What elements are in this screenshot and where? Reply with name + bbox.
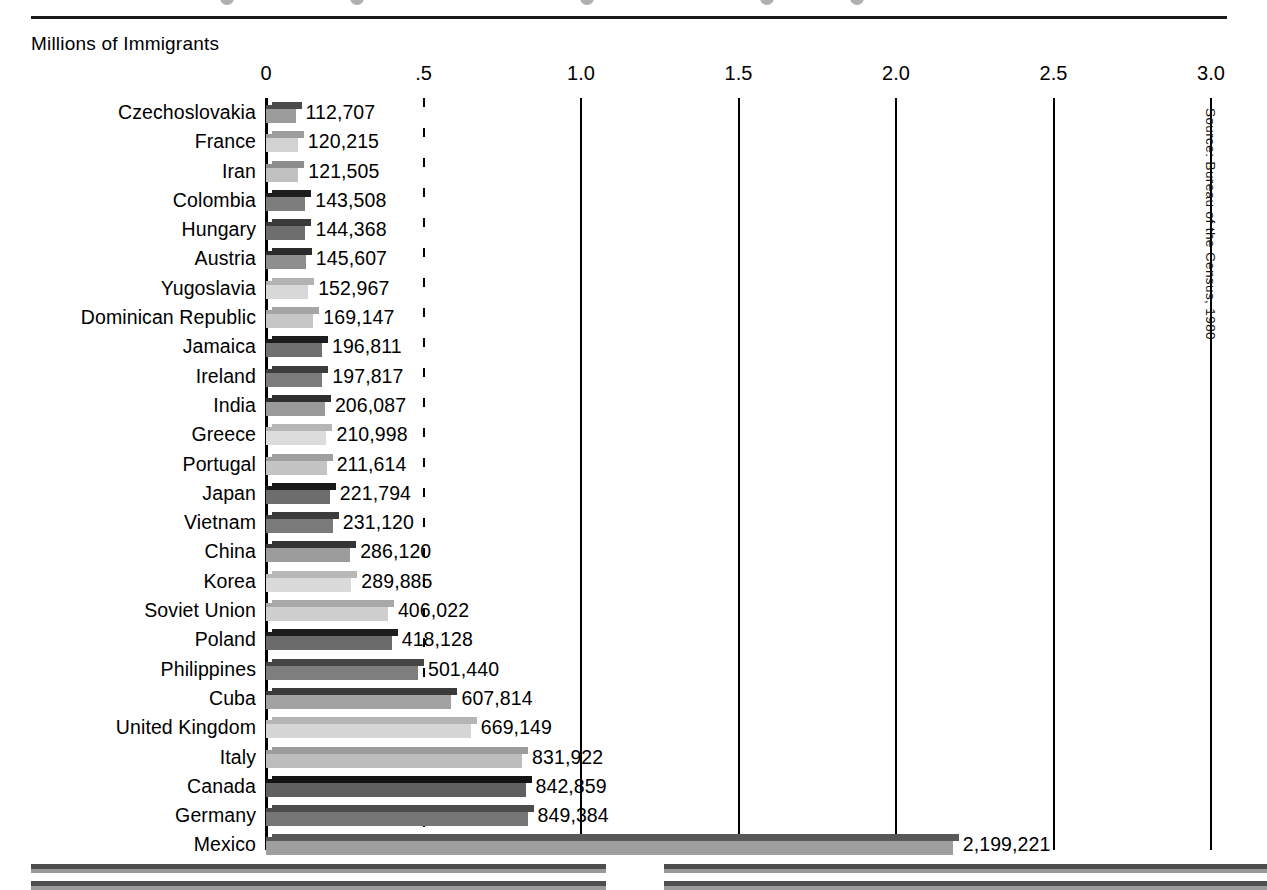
bar-top-face	[272, 834, 959, 841]
category-label: China	[205, 540, 256, 563]
bar-top-face	[272, 805, 534, 812]
bar-container	[266, 366, 328, 389]
x-tick-label: 0	[260, 62, 271, 85]
bar-value-label: 406,022	[398, 599, 469, 622]
bar-row: France120,215	[0, 128, 1267, 157]
bar	[266, 190, 311, 212]
category-label: Hungary	[182, 218, 256, 241]
bar-container	[266, 571, 357, 594]
bar-front-face	[266, 519, 333, 533]
bleed-stripe	[664, 864, 1267, 873]
bar-front-face	[266, 138, 298, 152]
bar-top-face	[272, 424, 332, 431]
bar-value-label: 197,817	[332, 365, 403, 388]
bar-value-label: 221,794	[340, 482, 411, 505]
bar-value-label: 211,614	[337, 453, 407, 476]
bar	[266, 717, 477, 739]
bar-container	[266, 336, 328, 359]
bar-front-face	[266, 695, 451, 709]
bar-row: Dominican Republic169,147	[0, 304, 1267, 333]
bar-top-face	[272, 278, 314, 285]
bar-top-face	[272, 483, 336, 490]
bar-row: Japan221,794	[0, 480, 1267, 509]
x-tick-label: 2.5	[1040, 62, 1068, 85]
bar-value-label: 501,440	[428, 658, 499, 681]
category-label: Canada	[187, 775, 256, 798]
bleed-stripe-light	[664, 886, 1267, 890]
bar-container	[266, 805, 534, 828]
bar	[266, 541, 356, 563]
bar-front-face	[266, 373, 322, 387]
bar-value-label: 607,814	[461, 687, 532, 710]
bar-row: Jamaica196,811	[0, 333, 1267, 362]
bar-front-face	[266, 255, 306, 269]
bar-container	[266, 512, 339, 535]
bar-value-label: 121,505	[308, 160, 379, 183]
category-label: Greece	[191, 423, 256, 446]
bar	[266, 454, 333, 476]
bar-container	[266, 454, 333, 477]
bar	[266, 483, 336, 505]
bar-container	[266, 629, 398, 652]
bar-row: Iran121,505	[0, 158, 1267, 187]
bar-top-face	[272, 219, 311, 226]
bar-row: Poland418,128	[0, 626, 1267, 655]
bar-value-label: 144,368	[315, 218, 386, 241]
bar-container	[266, 395, 331, 418]
category-label: Czechoslovakia	[118, 101, 256, 124]
bar-container	[266, 541, 356, 564]
bar-value-label: 231,120	[343, 511, 414, 534]
bar-container	[266, 190, 311, 213]
bar	[266, 336, 328, 358]
bar-row: Germany849,384	[0, 802, 1267, 831]
bar	[266, 629, 398, 651]
bar-front-face	[266, 343, 322, 357]
bar-top-face	[272, 307, 319, 314]
category-label: Cuba	[209, 687, 256, 710]
bar-front-face	[266, 636, 392, 650]
bar-value-label: 418,128	[402, 628, 473, 651]
bar-value-label: 849,384	[538, 804, 609, 827]
category-label: Colombia	[173, 189, 256, 212]
bar	[266, 395, 331, 417]
bar-value-label: 842,859	[536, 775, 607, 798]
bar	[266, 424, 332, 446]
category-label: Dominican Republic	[81, 306, 256, 329]
x-tick-label: .5	[415, 62, 432, 85]
bar-value-label: 143,508	[315, 189, 386, 212]
category-label: Ireland	[196, 365, 256, 388]
bar-value-label: 145,607	[316, 247, 387, 270]
bar-container	[266, 659, 424, 682]
bar-container	[266, 688, 457, 711]
source-note: Source: Bureau of the Census, 1980	[1203, 108, 1218, 340]
bar-top-face	[272, 395, 331, 402]
bar-container	[266, 717, 477, 740]
bleed-stripe-light	[31, 869, 606, 873]
bar	[266, 278, 314, 300]
bar	[266, 747, 528, 769]
bar	[266, 600, 394, 622]
bar-top-face	[272, 571, 357, 578]
bar-row: United Kingdom669,149	[0, 714, 1267, 743]
bar-value-label: 196,811	[332, 335, 402, 358]
bar-container	[266, 747, 528, 770]
bar-top-face	[272, 190, 311, 197]
bleed-stripe	[31, 881, 606, 890]
bar-value-label: 112,707	[306, 101, 376, 124]
bar-top-face	[272, 600, 394, 607]
bar	[266, 131, 304, 153]
bar-container	[266, 424, 332, 447]
x-tick-label: 1.5	[725, 62, 753, 85]
bar-row: Austria145,607	[0, 245, 1267, 274]
bar	[266, 805, 534, 827]
bar-front-face	[266, 168, 298, 182]
bar-row: Colombia143,508	[0, 187, 1267, 216]
bar-top-face	[272, 688, 457, 695]
bleed-stripe	[664, 881, 1267, 890]
bar-value-label: 152,967	[318, 277, 389, 300]
bar-front-face	[266, 431, 326, 445]
bar-front-face	[266, 490, 330, 504]
bar-row: Ireland197,817	[0, 363, 1267, 392]
bar	[266, 571, 357, 593]
bar-row: Yugoslavia152,967	[0, 275, 1267, 304]
